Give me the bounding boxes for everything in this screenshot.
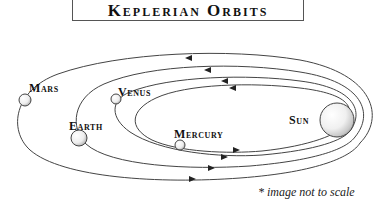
label-mars: Mars [29,82,59,94]
label-venus: Venus [118,86,151,98]
arrow-icon [189,176,196,182]
label-mercury: Mercury [174,128,223,140]
mars-planet-icon [19,94,31,106]
label-earth: Earth [69,120,103,132]
arrow-icon [208,165,215,171]
arrow-icon [204,67,211,73]
sun-icon [320,103,354,137]
label-sun: Sun [289,114,309,126]
orbit-diagram [0,0,389,211]
arrow-icon [221,154,228,160]
mercury-orbit [135,85,349,152]
arrow-icon [221,78,228,84]
mars-orbit [18,53,373,180]
footnote-not-to-scale: * image not to scale [258,186,355,198]
mercury-planet-icon [175,140,185,150]
arrow-icon [185,55,192,61]
arrow-icon [229,85,236,91]
